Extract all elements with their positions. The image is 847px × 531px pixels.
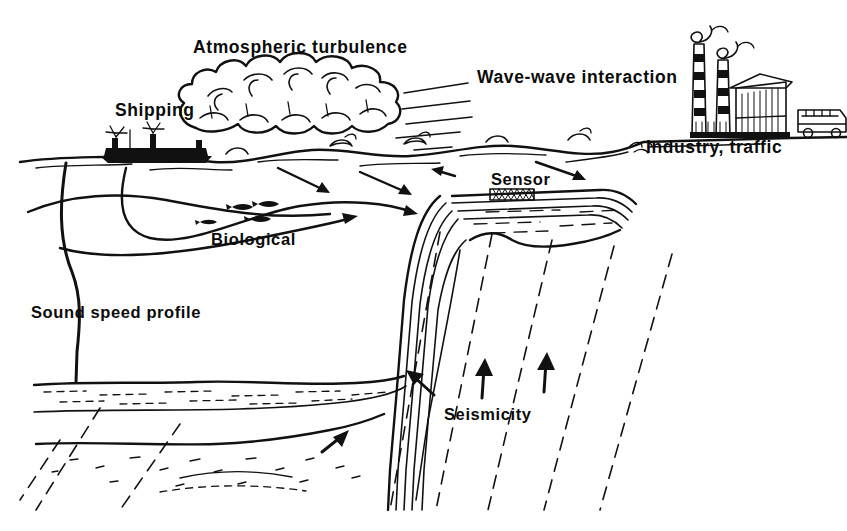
factory-icon bbox=[690, 26, 792, 138]
label-shipping: Shipping bbox=[115, 100, 195, 120]
diagram-canvas: Atmospheric turbulence Shipping Wave-wav… bbox=[0, 0, 847, 531]
fault-lines bbox=[20, 232, 672, 510]
continental-slope bbox=[388, 190, 636, 510]
label-seismicity: Seismicity bbox=[444, 405, 532, 423]
label-atmospheric-turbulence: Atmospheric turbulence bbox=[193, 37, 407, 57]
sound-speed-profile-curve bbox=[61, 163, 79, 382]
sediment-layers bbox=[34, 376, 406, 492]
bus-icon bbox=[798, 110, 846, 138]
label-biological: Biological bbox=[211, 230, 296, 248]
label-wave-wave-interaction: Wave-wave interaction bbox=[477, 67, 678, 87]
cumulus-cloud-icon bbox=[179, 53, 400, 134]
label-sensor: Sensor bbox=[491, 170, 551, 188]
label-sound-speed-profile: Sound speed profile bbox=[31, 303, 201, 321]
ambient-noise-diagram: Atmospheric turbulence Shipping Wave-wav… bbox=[0, 0, 847, 531]
label-industry-traffic: Industry, traffic bbox=[646, 137, 782, 157]
